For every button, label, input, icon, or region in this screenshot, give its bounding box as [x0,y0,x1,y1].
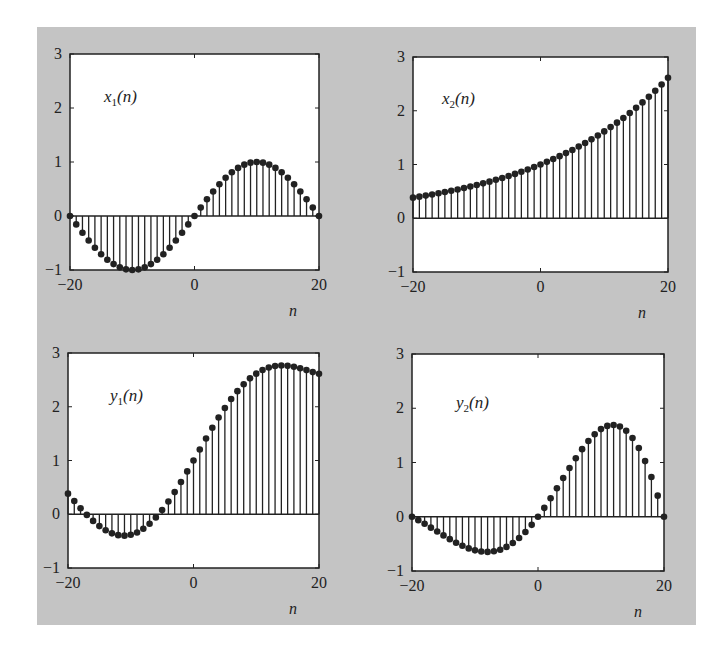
stem-marker [77,505,84,512]
stem-marker [554,485,561,492]
stem-marker [291,364,298,371]
stem-marker [429,191,436,198]
stem-marker [573,455,580,462]
stem-marker [642,458,649,465]
x-tick-label: −20 [400,278,425,295]
y-tick-label: 3 [52,344,60,361]
x-tick-label: 0 [191,276,199,293]
stem-marker [184,468,191,475]
stem-marker [102,527,109,534]
stem-marker [92,244,99,251]
stem-marker [196,446,203,453]
stem-marker [524,166,531,173]
y-tick-label: 0 [54,207,62,224]
stem-marker [171,489,178,496]
stem-marker [79,229,86,236]
stem-marker [516,535,523,542]
stem-marker [480,180,487,187]
stem-marker [260,159,267,166]
stem-plot-x1n: −10123−20020x1(n)n [45,45,327,319]
stem-marker [467,183,474,190]
stem-marker [478,548,485,555]
stem-marker [453,539,460,546]
stem-marker [569,147,576,154]
stem-marker [575,143,582,150]
stem-marker [148,261,155,268]
x-tick-label: 0 [190,574,198,591]
stem-marker [416,193,423,200]
stem-marker [222,405,229,412]
stem-marker [595,132,602,139]
stem-marker [127,531,134,538]
stem-marker [84,512,91,519]
stem-marker [146,520,153,527]
stem-marker [309,369,316,376]
stem-marker [160,251,167,258]
x-tick-label: 20 [660,278,676,295]
y-tick-label: 1 [396,454,404,471]
stem-marker [104,256,111,263]
stem-marker [422,192,429,199]
stem-marker [235,165,242,172]
stem-marker [447,536,454,543]
stem-marker [528,522,535,529]
series-label: y1(n) [108,386,143,407]
stem-marker [614,119,621,126]
stem-marker [461,185,468,192]
x-tick-label: −20 [55,574,80,591]
stem-marker [486,178,493,185]
stem-marker [537,161,544,168]
x-tick-label: 20 [311,276,327,293]
stem-marker [98,251,105,258]
y-tick-label: 2 [54,99,62,116]
stem-marker [297,365,304,372]
stem-marker [522,529,529,536]
stem-marker [272,165,279,172]
stem-marker [620,115,627,122]
stem-marker [278,169,285,176]
stem-marker [448,187,455,194]
x-tick-label: −20 [399,577,424,594]
stem-marker [579,446,586,453]
x-tick-label: 0 [537,278,545,295]
stem-marker [96,523,103,530]
stem-marker [473,182,480,189]
stem-marker [178,479,185,486]
stem-marker [459,542,466,549]
stem-marker [216,181,223,188]
y-tick-label: 0 [52,505,60,522]
stem-marker [259,367,266,374]
x-tick-label: 20 [311,574,327,591]
stem-marker [154,256,161,263]
stem-marker [115,532,122,539]
y-tick-label: 2 [52,398,60,415]
stem-plot-y1n: −10123−20020y1(n)n [43,344,327,617]
stem-marker [636,445,643,452]
stem-marker [228,396,235,403]
y-tick-label: 1 [397,156,405,173]
stem-marker [535,513,542,520]
stem-marker [210,188,217,195]
stem-marker [434,528,441,535]
stem-marker [566,465,573,472]
stem-marker [563,150,570,157]
stem-plot-x2n: −10123−20020x2(n)n [388,48,676,321]
x-axis-label: n [634,603,642,620]
series-label: y2(n) [454,393,489,414]
stem-marker [153,514,160,521]
stem-marker [591,431,598,438]
stem-marker [560,475,567,482]
stem-marker [215,414,222,421]
stem-marker [85,237,92,244]
stem-marker [604,423,611,430]
stem-marker [278,362,285,369]
stem-marker [285,175,292,182]
stem-marker [440,532,447,539]
stem-marker [159,507,166,514]
y-tick-label: 3 [396,345,404,362]
stem-marker [646,93,653,100]
stem-marker [601,128,608,135]
stem-marker [284,363,291,370]
stem-marker [658,81,665,88]
series-label: x1(n) [103,87,137,108]
